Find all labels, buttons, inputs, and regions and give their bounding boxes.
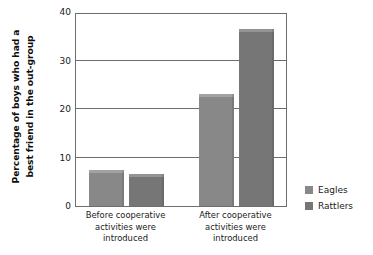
y-axis-tick-labels: 010203040 [48, 0, 71, 255]
y-axis-title: Percentage of boys who had a best friend… [0, 0, 46, 212]
bar-eagles-group-1 [89, 170, 124, 206]
y-axis-tick-30: 30 [48, 56, 71, 66]
x-axis-label-line: activities were [71, 222, 181, 234]
bar-shadow [232, 94, 234, 206]
bar-shadow [122, 170, 124, 206]
x-axis-label-line: Before cooperative [71, 210, 181, 222]
legend-item-eagles: Eagles [305, 183, 371, 197]
legend-swatch-icon [305, 202, 313, 210]
y-axis-tick-20: 20 [48, 104, 71, 114]
bar-shadow [162, 174, 164, 206]
x-axis-category-labels: Before cooperativeactivities wereintrodu… [75, 210, 287, 255]
legend-label: Eagles [318, 185, 348, 195]
x-axis-label-group-2: After cooperativeactivities wereintroduc… [181, 210, 291, 245]
bar-highlight [199, 94, 234, 97]
y-axis-tick-10: 10 [48, 153, 71, 163]
y-axis-tick-0: 0 [48, 201, 71, 211]
bar-rattlers-group-1 [129, 174, 164, 206]
bar-highlight [239, 29, 274, 32]
chart-legend: EaglesRattlers [305, 183, 371, 215]
legend-swatch-icon [305, 186, 313, 194]
x-axis-label-line: introduced [181, 233, 291, 245]
y-axis-tick-40: 40 [48, 7, 71, 17]
y-axis-title-line-1: Percentage of boys who had a [10, 29, 24, 183]
bar-chart-figure: Percentage of boys who had a best friend… [0, 0, 373, 255]
bar-eagles-group-2 [199, 94, 234, 206]
legend-label: Rattlers [318, 201, 353, 211]
bar-highlight [89, 170, 124, 173]
x-axis-label-line: After cooperative [181, 210, 291, 222]
legend-item-rattlers: Rattlers [305, 199, 371, 213]
y-axis-title-line-2: best friend in the out-group [23, 29, 37, 183]
x-axis-label-group-1: Before cooperativeactivities wereintrodu… [71, 210, 181, 245]
bar-shadow [272, 29, 274, 207]
plot-area [75, 13, 287, 207]
x-axis-label-line: introduced [71, 233, 181, 245]
bar-rattlers-group-2 [239, 29, 274, 207]
x-axis-label-line: activities were [181, 222, 291, 234]
bar-highlight [129, 174, 164, 177]
